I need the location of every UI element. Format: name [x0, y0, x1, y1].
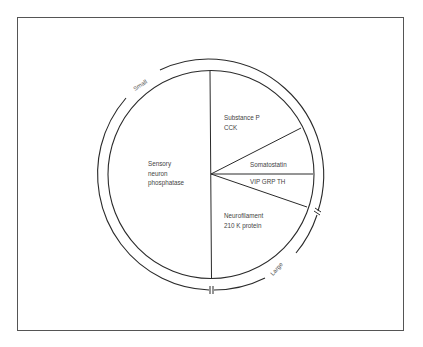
segment-vip: VIP GRP TH: [250, 178, 286, 185]
small-arc-main: [160, 59, 324, 211]
segment-substance-p-line2: CCK: [224, 124, 238, 131]
segment-sensory-line2: neuron: [148, 170, 168, 177]
large-arc-upper: [296, 215, 317, 253]
outer-arc-left: [98, 146, 209, 290]
segment-somatostatin: Somatostatin: [250, 161, 287, 168]
segment-neurofilament-line2: 210 K protein: [224, 222, 262, 230]
segment-substance-p-line1: Substance P: [224, 114, 260, 121]
break-mark-right: [314, 211, 320, 215]
break-mark-right: [315, 208, 321, 212]
large-label: Large: [269, 261, 284, 277]
segment-sensory-line3: phosphatase: [148, 179, 185, 187]
segment-sensory-line1: Sensory: [148, 160, 172, 168]
segment-neurofilament-line1: Neurofilament: [224, 212, 263, 219]
pie-diagram: Small Large Sensory neuron phosphatase S…: [0, 0, 423, 347]
small-label: Small: [132, 79, 148, 92]
large-arc-lower: [214, 278, 265, 290]
vertical-divider: [210, 71, 212, 279]
